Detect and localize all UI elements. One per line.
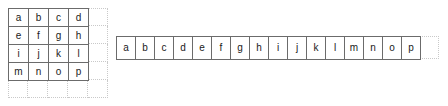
matrix-cell: a [9, 9, 29, 27]
vector-cell: f [212, 37, 231, 60]
matrix-cell: b [29, 9, 49, 27]
vector-cell: d [174, 37, 193, 60]
vector-cell: b [136, 37, 155, 60]
ghost-cell [88, 80, 108, 98]
matrix-grid: abcdefghijklmnop [8, 8, 89, 81]
ghost-cell [8, 80, 28, 98]
matrix-figure: abcdefghijklmnop [8, 8, 108, 98]
matrix-cell: g [49, 27, 69, 45]
matrix-cell: p [69, 63, 89, 81]
vector-cell: k [307, 37, 326, 60]
ghost-cell [28, 80, 48, 98]
vector-row: abcdefghijklmnop [116, 36, 421, 60]
ghost-cell [420, 36, 439, 59]
vector-cell: g [231, 37, 250, 60]
ghost-cell [88, 26, 108, 44]
vector-cell: l [326, 37, 345, 60]
matrix-cell: k [49, 45, 69, 63]
matrix-cell: j [29, 45, 49, 63]
matrix-cell: f [29, 27, 49, 45]
matrix-cell: d [69, 9, 89, 27]
ghost-cell [88, 44, 108, 62]
matrix-cell: n [29, 63, 49, 81]
ghost-cell [68, 80, 88, 98]
ghost-cell [88, 8, 108, 26]
vector-cell: c [155, 37, 174, 60]
matrix-cell: e [9, 27, 29, 45]
matrix-cell: l [69, 45, 89, 63]
matrix-cell: h [69, 27, 89, 45]
vector-cell: n [364, 37, 383, 60]
ghost-cell [88, 62, 108, 80]
vector-cell: j [288, 37, 307, 60]
vector-cell: p [402, 37, 421, 60]
vector-cell: o [383, 37, 402, 60]
vector-cell: e [193, 37, 212, 60]
matrix-cell: o [49, 63, 69, 81]
vector-cell: a [117, 37, 136, 60]
vector-cell: m [345, 37, 364, 60]
matrix-cell: m [9, 63, 29, 81]
vector-cell: i [269, 37, 288, 60]
matrix-cell: c [49, 9, 69, 27]
matrix-cell: i [9, 45, 29, 63]
vector-cell: h [250, 37, 269, 60]
vector-figure: abcdefghijklmnop [116, 36, 440, 59]
ghost-cell [48, 80, 68, 98]
